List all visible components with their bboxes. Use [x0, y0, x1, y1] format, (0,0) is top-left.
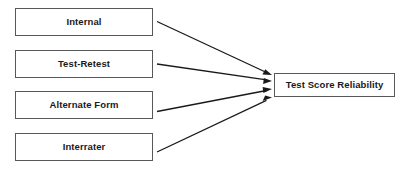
node-internal[interactable]: Internal	[15, 8, 153, 36]
node-interrater[interactable]: Interrater	[15, 133, 153, 161]
node-alternate-form-label: Alternate Form	[50, 100, 119, 110]
arrow-internal-to-target	[157, 22, 272, 76]
node-test-score-reliability[interactable]: Test Score Reliability	[274, 73, 395, 97]
node-test-score-reliability-label: Test Score Reliability	[286, 80, 384, 90]
reliability-diagram: Internal Test-Retest Alternate Form Inte…	[0, 0, 407, 177]
arrow-test-retest-to-target	[157, 64, 272, 84]
node-test-retest-label: Test-Retest	[58, 59, 110, 69]
node-internal-label: Internal	[66, 17, 101, 27]
node-alternate-form[interactable]: Alternate Form	[15, 91, 153, 119]
arrow-interrater-to-target	[157, 96, 272, 153]
arrow-alternate-form-to-target	[157, 87, 272, 111]
node-interrater-label: Interrater	[63, 142, 106, 152]
node-test-retest[interactable]: Test-Retest	[15, 50, 153, 78]
